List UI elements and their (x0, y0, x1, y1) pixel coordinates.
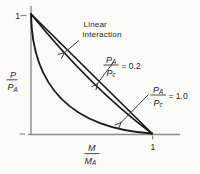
interaction-diagram-figure: 1 1 P PA M MA Linear interaction PA Pc =… (0, 0, 200, 174)
label-1-0-numerator: PA (153, 85, 163, 96)
label-1-0-value: = 1.0 (169, 91, 188, 101)
arrow-to-linear-line (65, 41, 80, 53)
label-linear-interaction: Linear interaction (83, 20, 122, 39)
y-axis-tick-label: 1 (15, 11, 20, 21)
label-0-2-value: = 0.2 (122, 61, 141, 71)
y-axis-label-denominator: PA (8, 82, 18, 93)
y-axis-label-numerator: P (10, 70, 16, 80)
label-0-2-numerator: PA (106, 55, 116, 66)
chart-canvas: 1 1 P PA M MA Linear interaction PA Pc =… (0, 0, 200, 174)
label-linear-line2: interaction (83, 30, 122, 39)
label-1-0-denominator: Pc (154, 98, 164, 109)
label-linear-line1: Linear (84, 20, 108, 29)
arrow-to-curve-1-0 (121, 95, 149, 123)
label-0-2-denominator: Pc (107, 68, 117, 79)
y-axis-label: P PA (7, 70, 18, 93)
x-axis-label-denominator: MA (85, 156, 97, 167)
x-axis-tick-label: 1 (150, 142, 155, 152)
x-axis-label-numerator: M (88, 143, 96, 153)
x-axis-label: M MA (85, 143, 100, 166)
label-pa-pc-0-2: PA Pc = 0.2 (104, 55, 141, 79)
label-pa-pc-1-0: PA Pc = 1.0 (151, 85, 188, 109)
